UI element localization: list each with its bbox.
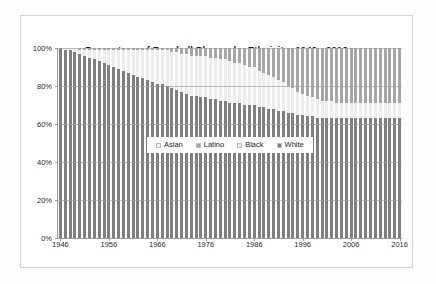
bar-segment-white [345, 118, 348, 238]
bar-segment-black [161, 50, 164, 84]
bar-segment-black [364, 103, 367, 118]
table-row [69, 48, 72, 238]
bar-segment-black [199, 56, 202, 98]
bar-segment-white [291, 113, 294, 238]
bar-segment-black [190, 56, 193, 96]
bar-segment-white [98, 61, 101, 238]
table-row [354, 48, 357, 238]
bar-segment-white [151, 82, 154, 238]
y-axis-tick-mark [55, 162, 58, 163]
gridline [58, 200, 402, 201]
bar-segment-latino [195, 48, 198, 56]
table-row [345, 48, 348, 238]
bar-segment-white [359, 118, 362, 238]
bar-segment-latino [190, 48, 193, 56]
bar-segment-black [107, 50, 110, 65]
bar-segment-white [69, 50, 72, 238]
bar-segment-black [398, 103, 401, 118]
bar-segment-white [369, 118, 372, 238]
bar-segment-black [258, 71, 261, 107]
bar-segment-black [122, 50, 125, 71]
x-axis-tick-mark [351, 238, 352, 241]
legend-item-latino[interactable]: Latino [196, 141, 224, 149]
bar-segment-latino [219, 48, 222, 59]
bar-segment-white [107, 65, 110, 238]
bar-segment-black [151, 50, 154, 82]
bar-segment-black [195, 56, 198, 96]
legend-item-white[interactable]: White [277, 141, 304, 149]
bar-segment-black [277, 80, 280, 110]
bar-segment-white [146, 80, 149, 238]
bar-segment-white [330, 118, 333, 238]
bar-segment-white [350, 118, 353, 238]
y-axis-tick-mark [55, 124, 58, 125]
bar-segment-latino [398, 48, 401, 103]
y-axis-tick-mark [55, 200, 58, 201]
bar-segment-black [209, 58, 212, 100]
x-axis-tick-label: 1966 [149, 240, 166, 249]
bar-segment-latino [277, 48, 280, 80]
bar-segment-white [122, 71, 125, 238]
bar-segment-latino [228, 48, 231, 61]
table-row [103, 48, 106, 238]
bar-segment-latino [306, 48, 309, 96]
bar-segment-white [388, 118, 391, 238]
legend-label: Asian [164, 141, 183, 149]
table-row [374, 48, 377, 238]
bar-segment-white [141, 78, 144, 238]
bar-segment-latino [393, 48, 396, 103]
bar-segment-latino [204, 48, 207, 56]
gridline [58, 86, 402, 87]
bar-segment-black [388, 103, 391, 118]
table-row [93, 48, 96, 238]
table-row [117, 48, 120, 238]
bar-segment-white [287, 113, 290, 238]
bar-segment-black [359, 103, 362, 118]
bar-segment-white [117, 69, 120, 238]
x-axis-tick-label: 1996 [294, 240, 311, 249]
chart-legend: AsianLatinoBlackWhite [147, 137, 313, 153]
x-axis-tick-mark [157, 238, 158, 241]
table-row [330, 48, 333, 238]
table-row [335, 48, 338, 238]
bar-segment-black [166, 50, 169, 86]
x-axis-tick-mark [254, 238, 255, 241]
table-row [340, 48, 343, 238]
bar-segment-white [321, 118, 324, 238]
bar-segment-white [316, 118, 319, 238]
gridline [58, 162, 402, 163]
bar-segment-white [78, 54, 81, 238]
bar-segment-white [282, 111, 285, 238]
table-row [122, 48, 125, 238]
bar-segment-black [136, 50, 139, 77]
bar-segment-white [195, 96, 198, 239]
bar-segment-latino [354, 48, 357, 103]
legend-item-black[interactable]: Black [237, 141, 263, 149]
bar-segment-latino [384, 48, 387, 103]
bar-segment-white [127, 73, 130, 238]
legend-swatch-icon [196, 143, 201, 148]
bar-segment-black [214, 58, 217, 100]
bar-segment-white [384, 118, 387, 238]
bar-segment-black [78, 50, 81, 54]
bar-segment-latino [350, 48, 353, 103]
bar-segment-white [267, 109, 270, 238]
bar-segment-black [204, 56, 207, 98]
bar-segment-white [136, 77, 139, 239]
bar-segment-black [345, 103, 348, 118]
bar-segment-latino [243, 48, 246, 65]
y-axis-tick-label: 20% [4, 196, 58, 205]
bar-segment-latino [282, 48, 285, 82]
bar-segment-black [175, 52, 178, 90]
bar-segment-white [209, 99, 212, 238]
bar-segment-black [267, 75, 270, 109]
bar-segment-latino [345, 48, 348, 103]
legend-item-asian[interactable]: Asian [156, 141, 183, 149]
bar-segment-white [112, 67, 115, 238]
bar-segment-latino [321, 48, 324, 101]
bar-segment-latino [364, 48, 367, 103]
bar-segment-latino [291, 48, 294, 88]
table-row [59, 48, 62, 238]
bar-segment-latino [325, 48, 328, 101]
bar-segment-black [393, 103, 396, 118]
